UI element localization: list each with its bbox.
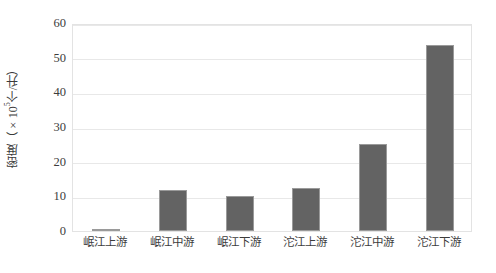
x-axis-tick-label: 沱江下游 [405,236,472,250]
y-axis-tick-label: 60 [22,17,66,30]
gridline [73,25,471,26]
x-axis-tick-label: 沱江中游 [339,236,406,250]
y-axis-title-prefix: 密度（×10 [6,107,20,169]
x-axis-tick-label: 岷江上游 [72,236,139,250]
y-axis-tick-label: 30 [22,121,66,134]
gridline [73,198,471,199]
bar [426,45,454,232]
gridline [73,94,471,95]
y-axis-tick-label: 40 [22,86,66,99]
y-axis-title-suffix: 个/升） [6,63,20,102]
bar [292,188,320,231]
y-axis-title: 密度（×105个/升） [0,0,22,232]
gridline [73,129,471,130]
x-axis-tick-label: 沱江上游 [272,236,339,250]
plot-area [72,24,472,232]
bar [92,229,120,231]
y-axis-tick-label: 10 [22,190,66,203]
x-axis-tick-labels: 岷江上游岷江中游岷江下游沱江上游沱江中游沱江下游 [72,236,472,260]
bar [359,144,387,231]
y-axis-tick-label: 0 [22,225,66,238]
x-axis-tick-label: 岷江中游 [139,236,206,250]
gridline [73,59,471,60]
y-axis-title-text: 密度（×105个/升） [4,63,19,168]
y-axis-tick-label: 50 [22,52,66,65]
y-axis-tick-label: 20 [22,156,66,169]
gridline [73,163,471,164]
x-axis-tick-label: 岷江下游 [205,236,272,250]
y-axis-title-exponent: 5 [3,103,12,107]
bar [159,190,187,231]
bar [226,196,254,231]
chart-screenshot: 密度（×105个/升） 0102030405060 岷江上游岷江中游岷江下游沱江… [0,0,496,273]
